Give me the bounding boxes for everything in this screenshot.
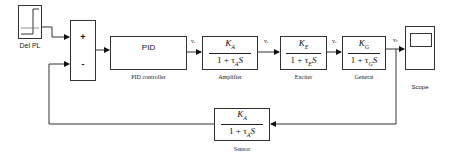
sensor-caption: Sensor [214, 146, 270, 152]
signal-label-exc-out: vₑ [332, 38, 337, 44]
exciter-denominator: 1 + τ [291, 55, 309, 65]
generator-numerator-sub: G [365, 44, 369, 50]
amplifier-denominator: 1 + τ [217, 55, 235, 65]
signal-label-amp-out: vₑ [264, 38, 269, 44]
amplifier-numerator-sub: A [231, 44, 235, 50]
block-diagram: Del PL + - PID PID controller vₑ KA 1 + … [0, 0, 453, 158]
exciter-caption: Exciter [280, 74, 327, 80]
generator-block: KG 1 + τGS [342, 36, 386, 70]
exciter-transfer-function: KE 1 + τES [281, 37, 326, 69]
step-signal-icon [19, 6, 41, 38]
generator-caption: Generat [342, 74, 386, 80]
amplifier-block: KA 1 + τAS [202, 36, 258, 70]
amplifier-caption: Amplifier [202, 74, 258, 80]
fraction-bar [286, 53, 321, 54]
exciter-block: KE 1 + τES [280, 36, 327, 70]
amplifier-denominator-s: S [238, 55, 243, 65]
pid-block: PID [110, 36, 187, 70]
signal-label-gen-out: vₜ [393, 36, 398, 43]
exciter-numerator-sub: E [305, 44, 309, 50]
fraction-bar [209, 53, 251, 54]
sensor-denominator-s: S [250, 126, 255, 136]
sensor-numerator-sub: A [243, 115, 247, 121]
scope-screen-icon [410, 33, 432, 47]
generator-denominator-s: S [373, 55, 378, 65]
sensor-denominator: 1 + τ [229, 126, 247, 136]
fraction-bar [221, 124, 263, 125]
sum-plus-sign: + [71, 32, 95, 42]
step-block [18, 5, 42, 39]
pid-caption: PID controller [110, 74, 187, 80]
pid-text: PID [111, 43, 186, 52]
step-caption: Del PL [14, 42, 46, 49]
generator-transfer-function: KG 1 + τGS [343, 37, 385, 69]
generator-denominator: 1 + τ [351, 55, 369, 65]
amplifier-transfer-function: KA 1 + τAS [203, 37, 257, 69]
scope-block [405, 26, 435, 70]
fraction-bar [348, 53, 381, 54]
sum-minus-sign: - [71, 59, 95, 69]
sum-block: + - [70, 20, 96, 81]
sensor-transfer-function: KA 1 + τAS [215, 109, 269, 140]
scope-caption: Scope [400, 84, 440, 90]
sensor-block: KA 1 + τAS [214, 108, 270, 141]
exciter-denominator-s: S [312, 55, 317, 65]
signal-label-pid-out: vₑ [191, 38, 196, 44]
